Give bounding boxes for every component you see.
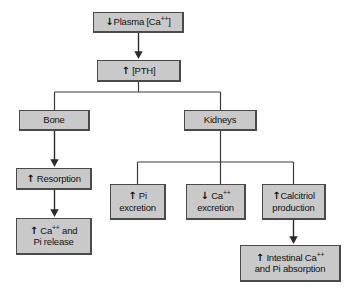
plasma-calcium-label: ↓Plasma [Ca++] [103,16,172,27]
resorption-label: ↑ Resorption [24,173,83,184]
intestinal-absorption-box[interactable]: ↑ Intestinal Ca++and Pi absorption [240,245,341,282]
up-arrow-icon: ↑ [26,173,34,184]
up-arrow-icon: ↑ [256,252,264,263]
calcium-pi-release-box[interactable]: ↑ Ca++ andPi release [16,218,92,255]
up-arrow-icon: ↑ [122,65,130,76]
plasma-calcium-box[interactable]: ↓Plasma [Ca++] [93,12,184,33]
calcitriol-production-label: ↑Calcitriolproduction [270,190,317,212]
calcium-excretion-box[interactable]: ↓ Ca++excretion [186,184,246,220]
kidneys-box[interactable]: Kidneys [184,110,257,131]
pth-box[interactable]: ↑ [PTH] [97,60,181,82]
up-arrow-icon: ↑ [30,225,38,236]
resorption-box[interactable]: ↑ Resorption [16,168,92,190]
edge-kidneys-split [138,131,294,184]
calcium-excretion-label: ↓ Ca++excretion [195,190,236,212]
pi-excretion-box[interactable]: ↑ Piexcretion [110,184,166,220]
bone-box[interactable]: Bone [19,110,90,131]
calcium-pi-release-label: ↑ Ca++ andPi release [28,225,80,247]
down-arrow-icon: ↓ [105,16,113,27]
edge-pth-split [55,82,221,110]
flowchart-canvas: ↓Plasma [Ca++] ↑ [PTH] Bone Kidneys ↑ Re… [0,0,348,290]
kidneys-label: Kidneys [202,114,238,125]
calcitriol-production-box[interactable]: ↑Calcitriolproduction [262,184,326,220]
bone-label: Bone [41,114,66,125]
pth-label: ↑ [PTH] [120,65,158,76]
intestinal-absorption-label: ↑ Intestinal Ca++and Pi absorption [253,252,328,274]
pi-excretion-label: ↑ Piexcretion [117,190,158,212]
down-arrow-icon: ↓ [201,190,209,201]
up-arrow-icon: ↑ [272,190,280,201]
up-arrow-icon: ↑ [128,190,136,201]
